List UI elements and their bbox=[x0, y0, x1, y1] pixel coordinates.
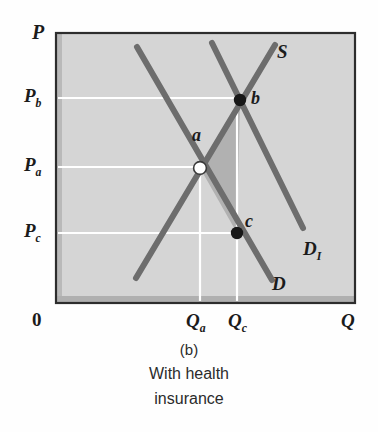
point-c-marker bbox=[231, 227, 243, 239]
y-tick-label-Pa: Pa bbox=[24, 155, 42, 179]
y-axis-title: P bbox=[32, 22, 44, 42]
curve-label-DI-sub: I bbox=[317, 250, 322, 263]
point-b-marker bbox=[234, 94, 246, 106]
point-label-b: b bbox=[251, 89, 260, 107]
x-tick-Qc-sub: c bbox=[242, 322, 247, 335]
x-tick-Qc-base: Q bbox=[228, 310, 242, 331]
curve-label-DI-base: D bbox=[303, 238, 317, 259]
x-tick-Qa-base: Q bbox=[186, 310, 200, 331]
y-tick-Pc-sub: c bbox=[36, 232, 41, 245]
y-tick-label-Pc: Pc bbox=[24, 221, 41, 245]
caption-line1: With health bbox=[0, 364, 378, 384]
curve-label-supply: S bbox=[277, 42, 288, 61]
y-tick-Pb-base: P bbox=[24, 85, 36, 106]
panel-label: (b) bbox=[0, 340, 378, 359]
x-tick-label-Qa: Qa bbox=[186, 311, 206, 335]
x-tick-Qa-sub: a bbox=[200, 322, 206, 335]
x-tick-label-Qc: Qc bbox=[228, 311, 247, 335]
point-a-marker bbox=[194, 162, 207, 175]
point-label-a: a bbox=[192, 126, 201, 144]
y-tick-Pc-base: P bbox=[24, 220, 36, 241]
x-axis-title: Q bbox=[341, 311, 355, 330]
origin-label: 0 bbox=[32, 310, 42, 329]
y-tick-Pa-sub: a bbox=[36, 166, 42, 179]
caption-line2: insurance bbox=[0, 389, 378, 409]
y-tick-label-Pb: Pb bbox=[24, 86, 42, 110]
point-label-c: c bbox=[245, 212, 253, 230]
curve-label-insured-demand: DI bbox=[303, 239, 321, 263]
y-tick-Pa-base: P bbox=[24, 154, 36, 175]
y-tick-Pb-sub: b bbox=[36, 97, 42, 110]
curve-label-demand: D bbox=[272, 274, 286, 293]
